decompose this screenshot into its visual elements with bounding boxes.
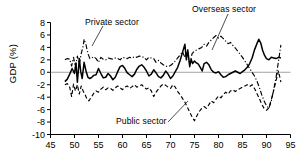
annotation-private-sector: Private sector xyxy=(85,17,139,27)
x-tick-label: 50 xyxy=(69,140,79,150)
y-tick-label: 0 xyxy=(40,67,45,77)
x-tick-label: 95 xyxy=(285,140,295,150)
chart-plot-area: -10-8-6-4-2024684550556065707580859095 xyxy=(0,0,298,162)
x-tick-label: 85 xyxy=(237,140,247,150)
annotation-overseas-sector: Overseas sector xyxy=(192,4,256,14)
x-tick-label: 60 xyxy=(117,140,127,150)
series-line-public-sector xyxy=(65,71,281,121)
y-tick-label: -8 xyxy=(37,117,45,127)
annotation-leader-line xyxy=(92,26,103,46)
y-tick-label: -6 xyxy=(37,105,45,115)
y-tick-label: -2 xyxy=(37,80,45,90)
x-tick-label: 45 xyxy=(45,140,55,150)
x-tick-label: 70 xyxy=(165,140,175,150)
x-tick-label: 80 xyxy=(213,140,223,150)
annotation-public-sector: Public sector xyxy=(116,116,167,126)
x-tick-label: 65 xyxy=(141,140,151,150)
annotation-leader-line xyxy=(168,101,188,122)
y-tick-label: 2 xyxy=(40,55,45,65)
y-tick-label: 6 xyxy=(40,30,45,40)
x-tick-label: 55 xyxy=(93,140,103,150)
y-tick-label: -4 xyxy=(37,92,45,102)
x-tick-label: 75 xyxy=(189,140,199,150)
y-tick-label: 8 xyxy=(40,18,45,28)
x-tick-label: 90 xyxy=(261,140,271,150)
y-axis-label: GDP (%) xyxy=(7,34,18,94)
y-tick-label: 4 xyxy=(40,43,45,53)
gdp-sector-chart: -10-8-6-4-2024684550556065707580859095 G… xyxy=(0,0,298,162)
y-tick-label: -10 xyxy=(32,130,45,140)
annotation-leader-line xyxy=(212,14,228,50)
